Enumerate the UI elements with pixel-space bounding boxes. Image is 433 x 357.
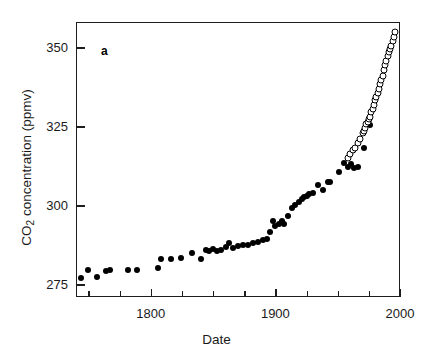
y-tick-label-300: 300 (34, 198, 68, 213)
y-tick-label-325: 325 (34, 119, 68, 134)
x-tick-label-2000: 2000 (386, 306, 415, 321)
y-axis-title-pre: CO (19, 225, 34, 245)
x-tick-1750 (88, 291, 89, 297)
x-tick-1900 (275, 289, 276, 297)
panel-label: a (101, 44, 108, 58)
y-axis-title-subscript: 2 (25, 220, 36, 226)
y-tick-275 (76, 284, 85, 285)
x-tick-1825 (182, 291, 183, 297)
plot-frame (76, 22, 400, 297)
x-tick-label-1900: 1900 (261, 306, 290, 321)
x-tick-1775 (120, 291, 121, 297)
y-tick-label-275: 275 (34, 277, 68, 292)
figure-panel-a: a 180019002000275300325350 Date CO2 conc… (0, 0, 433, 357)
y-tick-300 (76, 205, 85, 206)
y-tick-350 (76, 47, 85, 48)
y-axis-title-post: concentration (ppmv) (19, 89, 34, 220)
x-tick-2000 (400, 289, 401, 297)
x-tick-1800 (151, 289, 152, 297)
x-tick-label-1800: 1800 (136, 306, 165, 321)
x-tick-1850 (213, 291, 214, 297)
x-tick-1975 (369, 291, 370, 297)
y-tick-325 (76, 126, 85, 127)
y-axis-title: CO2 concentration (ppmv) (19, 58, 34, 278)
x-tick-1950 (338, 291, 339, 297)
y-tick-label-350: 350 (34, 40, 68, 55)
x-tick-1925 (307, 291, 308, 297)
x-axis-title: Date (0, 332, 433, 347)
x-tick-1875 (244, 291, 245, 297)
